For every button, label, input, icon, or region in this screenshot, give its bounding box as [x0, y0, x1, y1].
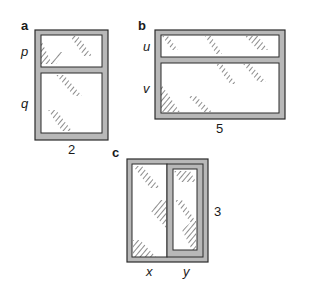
bottom-label-b: 5	[216, 122, 223, 135]
bottom-label-a: 2	[68, 143, 75, 156]
panel-label-a: a	[21, 19, 28, 32]
panel-label-b: b	[138, 19, 146, 32]
window-b	[155, 30, 285, 119]
window-c	[127, 159, 208, 262]
side-label-q: q	[21, 97, 28, 110]
pane-q	[41, 73, 102, 133]
side-label-v: v	[143, 82, 150, 95]
pane-v	[161, 63, 279, 113]
side-label-p: p	[21, 45, 28, 58]
right-label-c: 3	[214, 205, 221, 218]
bottom-label-y: y	[183, 265, 190, 278]
panel-label-c: c	[112, 146, 119, 159]
window-a	[35, 30, 108, 140]
bottom-label-x: x	[146, 265, 153, 278]
side-label-u: u	[143, 40, 150, 53]
